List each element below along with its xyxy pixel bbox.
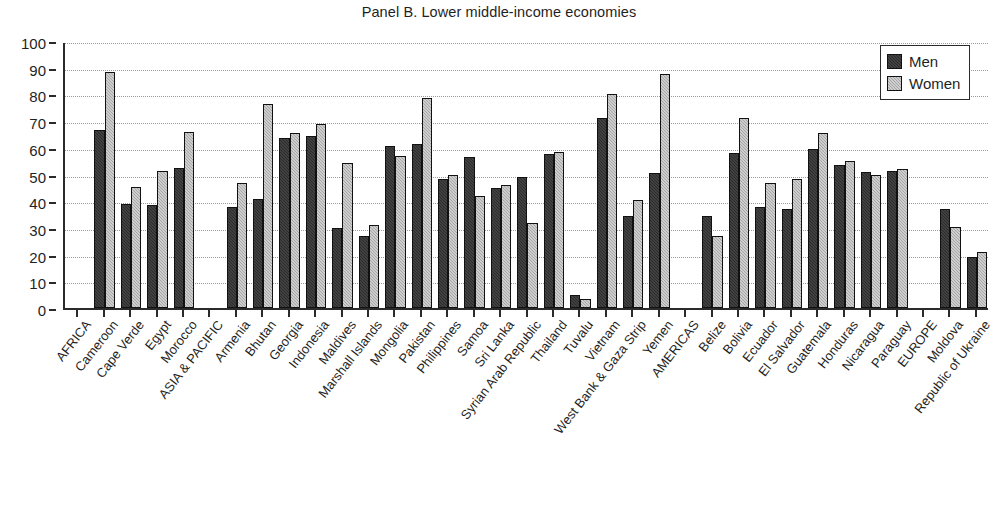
x-axis-tick-mark [684,310,686,317]
bar-men [359,236,369,308]
bar-group [570,43,590,308]
bar-men [253,199,263,308]
x-axis-tick-mark [737,310,739,317]
x-axis-tick-mark [473,310,475,317]
x-axis-tick-mark [922,310,924,317]
y-axis-tick-label: 100 [21,35,46,52]
bar-men [491,188,501,308]
bar-women [765,183,775,308]
bar-group [200,43,220,308]
bar-men [967,257,977,308]
bar-group [412,43,432,308]
x-axis-tick-mark [446,310,448,317]
bar-men [755,207,765,308]
bar-men [834,165,844,308]
x-axis-tick-mark [76,310,78,317]
bar-women [818,133,828,308]
bar-men [332,228,342,308]
bar-group [332,43,352,308]
bar-group [94,43,114,308]
x-axis-tick-mark [658,310,660,317]
bar-men [279,138,289,308]
bar-women [739,118,749,308]
bar-men [544,154,554,308]
y-axis-tick-mark [49,149,56,151]
bar-group [227,43,247,308]
bar-group [359,43,379,308]
x-axis-tick-mark [341,310,343,317]
bar-women [369,225,379,308]
bar-men [412,144,422,308]
bar-group [279,43,299,308]
x-axis-tick-mark [790,310,792,317]
bar-group [597,43,617,308]
bar-women [897,169,907,308]
x-axis-tick-mark [288,310,290,317]
bar-men [623,216,633,308]
chart-title: Panel B. Lower middle-income economies [0,4,998,20]
x-axis-tick-mark [103,310,105,317]
y-axis-tick-mark [49,122,56,124]
bar-women [422,98,432,308]
bar-men [438,179,448,308]
bar-women [316,124,326,308]
bar-men [782,209,792,308]
bar-group [385,43,405,308]
bar-women [342,163,352,309]
x-axis-tick-mark [261,310,263,317]
x-axis-tick-mark [869,310,871,317]
y-axis-tick-label: 20 [29,248,46,265]
bar-women [554,152,564,308]
bar-women [845,161,855,308]
bar-group [438,43,458,308]
y-axis-tick-label: 70 [29,115,46,132]
bar-group [834,43,854,308]
chart-legend: MenWomen [880,45,970,100]
y-axis-tick-mark [49,69,56,71]
bar-women [105,72,115,308]
y-axis-tick-mark [49,95,56,97]
x-axis-tick-mark [314,310,316,317]
bar-group [464,43,484,308]
y-axis-tick-mark [49,42,56,44]
bar-group [174,43,194,308]
bar-men [702,216,712,308]
bar-group [729,43,749,308]
bar-women [792,179,802,308]
bar-group [808,43,828,308]
x-axis-tick-mark [763,310,765,317]
bar-group [861,43,881,308]
y-axis-tick-label: 90 [29,61,46,78]
bar-group [517,43,537,308]
x-axis-tick-mark [975,310,977,317]
bar-men [570,295,580,308]
x-axis-tick-mark [948,310,950,317]
bar-group [755,43,775,308]
bar-group [623,43,643,308]
y-axis-tick-label: 10 [29,275,46,292]
x-axis-tick-mark [129,310,131,317]
bar-men [174,168,184,308]
bar-group [649,43,669,308]
y-axis-tick-mark [49,256,56,258]
bar-men [808,149,818,308]
bar-men [940,209,950,308]
y-axis-tick-label: 60 [29,141,46,158]
bar-group [68,43,88,308]
y-axis-tick-label: 40 [29,195,46,212]
bar-men [121,204,131,308]
x-axis-tick-mark [711,310,713,317]
bar-group [702,43,722,308]
x-axis-tick-mark [631,310,633,317]
legend-label: Men [909,53,938,70]
x-axis-tick-mark [552,310,554,317]
y-axis-tick-label: 0 [38,302,46,319]
y-axis: 0102030405060708090100 [0,43,56,310]
bar-women [950,227,960,308]
bar-group [544,43,564,308]
x-axis-tick-mark [843,310,845,317]
bar-women [131,187,141,308]
bar-men [729,153,739,308]
bar-men [861,172,871,308]
y-axis-tick-mark [49,229,56,231]
